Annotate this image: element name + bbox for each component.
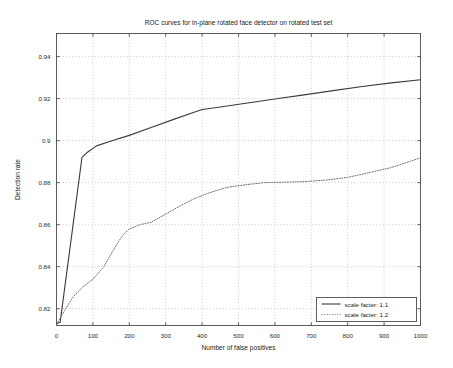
y-tick-label: 0.92 (38, 95, 51, 102)
x-tick-label: 0 (55, 332, 59, 339)
y-tick-label: 0.88 (38, 179, 51, 186)
legend-label: scale facter: 1.2 (345, 311, 389, 318)
plot-frame (57, 34, 421, 326)
legend[interactable]: scale facter: 1.1scale facter: 1.2 (317, 298, 417, 322)
y-tick-label: 0.94 (38, 53, 51, 60)
x-tick-label: 800 (343, 332, 354, 339)
x-tick-label: 700 (306, 332, 317, 339)
x-tick-label: 1000 (414, 332, 428, 339)
series-layer (57, 80, 421, 325)
x-tick-labels: 01002003004005006007008009001000 (55, 332, 428, 339)
y-tick-label: 0.84 (38, 263, 51, 270)
chart-title: ROC curves for in-plane rotated face det… (145, 19, 333, 27)
grid-layer (57, 34, 421, 326)
x-tick-label: 500 (233, 332, 244, 339)
tick-marks-layer (57, 34, 421, 326)
y-tick-label: 0.86 (38, 221, 51, 228)
y-axis-label: Detection rate (14, 159, 21, 200)
x-tick-label: 100 (88, 332, 99, 339)
x-tick-label: 400 (197, 332, 208, 339)
x-axis-label: Number of false positives (201, 344, 276, 352)
y-tick-label: 0.82 (38, 305, 51, 312)
y-tick-labels: 0.820.840.860.880.90.920.94 (38, 53, 51, 312)
figure-canvas: 01002003004005006007008009001000 0.820.8… (0, 0, 453, 368)
x-tick-label: 200 (124, 332, 135, 339)
legend-label: scale facter: 1.1 (345, 301, 389, 308)
x-tick-label: 600 (270, 332, 281, 339)
x-tick-label: 900 (379, 332, 390, 339)
roc-chart: 01002003004005006007008009001000 0.820.8… (0, 0, 453, 368)
x-tick-label: 300 (161, 332, 172, 339)
y-tick-label: 0.9 (42, 137, 51, 144)
